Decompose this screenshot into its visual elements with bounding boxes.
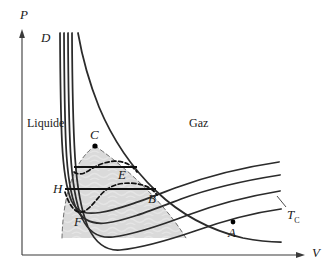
- curve-label-T-subscript: C: [294, 216, 299, 225]
- axis-label-volume: V: [312, 246, 320, 259]
- point-label-B: B: [148, 192, 156, 205]
- state-point-dot-A: [231, 220, 236, 225]
- critical-point-dot-C: [92, 143, 97, 148]
- tc-leader-line: [277, 196, 286, 207]
- axis-label-pressure: P: [20, 8, 28, 21]
- point-label-F: F: [74, 215, 82, 228]
- region-label-liquide: Liquide: [27, 117, 64, 129]
- region-label-gaz: Gaz: [189, 117, 208, 129]
- point-label-A: A: [228, 226, 236, 239]
- tc-leader-group: [277, 196, 286, 207]
- point-label-D: D: [41, 31, 50, 44]
- pressure-axis-arrowhead: [19, 29, 25, 38]
- point-label-C: C: [90, 128, 99, 141]
- point-label-H: H: [53, 182, 62, 195]
- point-label-E: E: [118, 168, 126, 181]
- volume-axis-arrowhead: [296, 252, 305, 258]
- curve-label-critical-isotherm: TC: [287, 206, 300, 225]
- pv-diagram-figure: P V D C E H F B A Liquide Gaz TC: [0, 0, 331, 273]
